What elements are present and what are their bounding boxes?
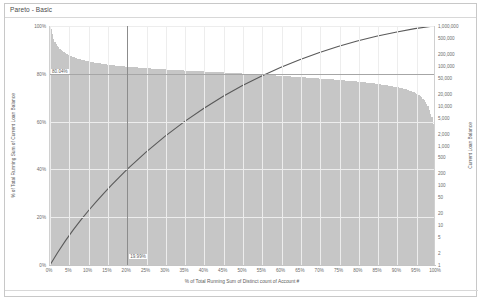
pareto-80-line-label: 80.04%	[51, 69, 69, 74]
y-axis-right-tick: 10	[438, 223, 443, 228]
gridline-vertical	[243, 26, 244, 265]
plot-canvas[interactable]: 80.04%19.99%	[49, 26, 435, 265]
pareto-80-line[interactable]	[50, 74, 434, 75]
y-axis-right-tick: 10,000	[438, 103, 452, 108]
gridline-vertical	[108, 26, 109, 265]
x-axis-tick: 15%	[102, 268, 111, 273]
gridline-vertical	[262, 26, 263, 265]
y-axis-left-tick: 20%	[37, 215, 46, 220]
gridline-vertical	[359, 26, 360, 265]
x-axis-tick: 30%	[160, 268, 169, 273]
y-axis-right-title: Current Loan Balance	[464, 26, 476, 265]
x-axis-tick: 40%	[199, 268, 208, 273]
y-axis-right-tick: 5	[438, 235, 441, 240]
y-axis-right-tick: 20,000	[438, 91, 452, 96]
x-axis-tick: 90%	[392, 268, 401, 273]
y-axis-right-tick: 1,000	[438, 143, 450, 148]
gridline-vertical	[282, 26, 283, 265]
y-axis-left-tick: 60%	[37, 119, 46, 124]
x-axis-tick: 100%	[429, 268, 441, 273]
page-title: Pareto - Basic	[10, 6, 52, 13]
gridline-vertical	[397, 26, 398, 265]
gridline-vertical	[301, 26, 302, 265]
y-axis-left-tick: 100%	[34, 24, 46, 29]
y-axis-right-tick: 100,000	[438, 63, 455, 68]
account-share-line[interactable]	[127, 26, 128, 265]
y-axis-left-tick: 40%	[37, 167, 46, 172]
y-axis-right-tick: 500	[438, 155, 446, 160]
y-axis-right-tick: 20	[438, 211, 443, 216]
footer-divider	[5, 290, 478, 291]
x-axis-tick: 65%	[295, 268, 304, 273]
x-axis[interactable]: 0%5%10%15%20%25%30%35%40%45%50%55%60%65%…	[49, 266, 435, 278]
y-axis-right-tick: 500,000	[438, 35, 455, 40]
worksheet-container: Pareto - Basic % of Total Running Sum of…	[4, 3, 477, 297]
x-axis-tick: 5%	[65, 268, 72, 273]
gridline-vertical	[378, 26, 379, 265]
y-axis-left-tick: 80%	[37, 71, 46, 76]
x-axis-tick: 20%	[122, 268, 131, 273]
gridline-vertical	[340, 26, 341, 265]
gridline-vertical	[89, 26, 90, 265]
x-axis-tick: 60%	[276, 268, 285, 273]
y-axis-right-tick: 2	[438, 251, 441, 256]
gridline-vertical	[224, 26, 225, 265]
x-axis-title: % of Total Running Sum of Distinct count…	[49, 279, 435, 284]
x-axis-tick: 70%	[315, 268, 324, 273]
y-axis-right-tick: 50	[438, 195, 443, 200]
gridline-vertical	[204, 26, 205, 265]
x-axis-tick: 95%	[411, 268, 420, 273]
gridline-vertical	[147, 26, 148, 265]
gridline-vertical	[320, 26, 321, 265]
y-axis-right-title-text: Current Loan Balance	[468, 122, 473, 169]
x-axis-tick: 35%	[179, 268, 188, 273]
y-axis-right-tick: 200,000	[438, 51, 455, 56]
x-axis-tick: 10%	[83, 268, 92, 273]
x-axis-tick: 80%	[353, 268, 362, 273]
x-axis-tick: 55%	[257, 268, 266, 273]
x-axis-tick: 85%	[372, 268, 381, 273]
gridline-vertical	[166, 26, 167, 265]
y-axis-right-tick: 200	[438, 171, 446, 176]
y-axis-right-tick: 1,000,000	[438, 24, 458, 29]
account-share-line-label: 19.99%	[129, 254, 147, 259]
worksheet-title-bar: Pareto - Basic	[5, 4, 476, 18]
chart-area: % of Total Running Sum of Current Loan B…	[5, 18, 478, 297]
x-axis-tick: 50%	[237, 268, 246, 273]
y-axis-right-tick: 100	[438, 183, 446, 188]
x-axis-tick: 0%	[46, 268, 53, 273]
y-axis-right-tick: 2,000	[438, 131, 450, 136]
y-axis-right-tick: 50,000	[438, 75, 452, 80]
gridline-vertical	[185, 26, 186, 265]
y-axis-left-tick: 0%	[39, 263, 46, 268]
gridline-vertical	[69, 26, 70, 265]
y-axis-left[interactable]: 0%20%40%60%80%100%	[5, 26, 49, 265]
gridline-vertical	[50, 26, 51, 265]
gridline-vertical	[417, 26, 418, 265]
x-axis-tick: 45%	[218, 268, 227, 273]
y-axis-right-tick: 1	[438, 263, 441, 268]
x-axis-tick: 75%	[334, 268, 343, 273]
y-axis-right-tick: 5,000	[438, 115, 450, 120]
x-axis-tick: 25%	[141, 268, 150, 273]
